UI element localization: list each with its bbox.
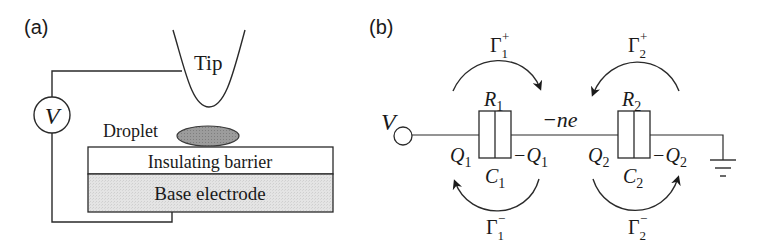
capacitor-1-label: C1 <box>485 165 505 191</box>
droplet-icon <box>177 126 239 146</box>
charge-2-right-label: −Q2 <box>652 144 687 170</box>
tunnel-junction-1 <box>479 111 511 158</box>
rate-2-forward-arrow-icon <box>593 62 679 94</box>
tunnel-junction-2 <box>618 111 650 158</box>
panel-a-label: (a) <box>24 16 48 38</box>
resistor-1-label: R1 <box>483 88 503 114</box>
base-electrode-label: Base electrode <box>154 183 265 204</box>
resistor-2-label: R2 <box>621 88 641 114</box>
rate-2-forward-label: Γ2+ <box>628 29 647 61</box>
droplet-label: Droplet <box>103 121 158 141</box>
panel-b: (b) V R1 C1 Q1 −Q1 Γ1+ Γ1− −ne <box>369 16 736 243</box>
rate-1-backward-label: Γ1− <box>486 211 505 243</box>
terminal-icon <box>394 127 412 145</box>
ground-icon <box>710 160 736 176</box>
charge-1-left-label: Q1 <box>450 144 471 170</box>
tip-label: Tip <box>194 51 222 75</box>
rate-1-forward-label: Γ1+ <box>490 29 509 61</box>
wire-top <box>52 71 182 97</box>
charge-2-left-label: Q2 <box>588 144 609 170</box>
island-charge-label: −ne <box>542 107 578 132</box>
panel-b-label: (b) <box>369 16 393 38</box>
voltage-label: V <box>45 103 62 129</box>
rate-1-forward-arrow-icon <box>453 61 540 91</box>
rate-2-backward-label: Γ2− <box>628 211 647 243</box>
charge-1-right-label: −Q1 <box>513 144 548 170</box>
panel-a: (a) V Tip Droplet Insulating barrier Bas… <box>24 16 333 222</box>
insulating-barrier-label: Insulating barrier <box>148 152 272 172</box>
capacitor-2-label: C2 <box>623 165 643 191</box>
